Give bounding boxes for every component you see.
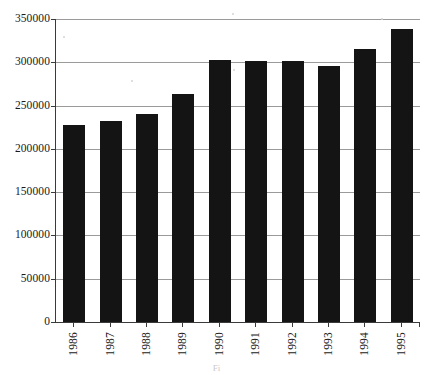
y-axis-tick (51, 62, 56, 63)
x-axis-tick (146, 322, 147, 327)
bar (282, 61, 304, 322)
y-axis-tick-label: 100000 (0, 229, 50, 240)
x-axis-tick (255, 322, 256, 327)
x-axis-tick (419, 322, 420, 327)
x-axis-tick-label: 1987 (104, 332, 116, 356)
gridline (56, 19, 420, 20)
bar (318, 66, 340, 322)
bar-chart-figure: 0500001000001500002000002500003000003500… (0, 0, 433, 375)
bar (136, 114, 158, 322)
y-axis-tick-label: 150000 (0, 186, 50, 197)
x-axis-tick-label: 1992 (286, 332, 298, 356)
x-axis-tick (219, 322, 220, 327)
y-axis-tick-label: 0 (0, 316, 50, 327)
plot-area (55, 19, 419, 322)
bar (245, 61, 267, 322)
y-axis-tick-label: 350000 (0, 13, 50, 24)
bar (100, 121, 122, 322)
x-axis-tick (364, 322, 365, 327)
x-axis-tick (73, 322, 74, 327)
y-axis-tick (51, 235, 56, 236)
scan-speckle (131, 80, 133, 82)
x-axis-tick-label: 1986 (67, 332, 79, 356)
x-axis-tick (401, 322, 402, 327)
bar (172, 94, 194, 322)
scan-speckle (232, 13, 234, 15)
x-axis-tick-label: 1990 (213, 332, 225, 356)
bar (354, 49, 376, 322)
y-axis-tick (51, 19, 56, 20)
x-axis-tick-label: 1993 (322, 332, 334, 356)
x-axis-tick (328, 322, 329, 327)
y-axis-tick-label: 50000 (0, 273, 50, 284)
x-axis-tick (182, 322, 183, 327)
figure-caption: Fi (0, 363, 433, 373)
y-axis-tick (51, 279, 56, 280)
scan-speckle (381, 18, 383, 20)
x-axis-tick-label: 1989 (176, 332, 188, 356)
x-axis-tick (110, 322, 111, 327)
scan-speckle (233, 69, 235, 71)
x-axis-tick-label: 1994 (358, 332, 370, 356)
x-axis-tick-label: 1991 (249, 332, 261, 356)
bar (209, 60, 231, 322)
x-axis-tick (292, 322, 293, 327)
y-axis-tick-label: 250000 (0, 100, 50, 111)
y-axis-tick (51, 192, 56, 193)
y-axis-tick-label: 200000 (0, 143, 50, 154)
x-axis-tick-label: 1988 (140, 332, 152, 356)
y-axis-tick (51, 149, 56, 150)
y-axis-tick-label: 300000 (0, 56, 50, 67)
scan-speckle (63, 36, 65, 38)
y-axis-tick (51, 106, 56, 107)
bar (63, 125, 85, 322)
x-axis-tick-label: 1995 (395, 332, 407, 356)
bar (391, 29, 413, 322)
